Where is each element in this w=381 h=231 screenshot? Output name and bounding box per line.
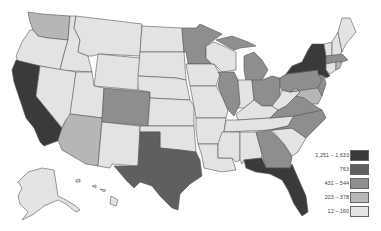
legend-label: 12 – 160 (328, 208, 349, 214)
legend-swatch (350, 150, 369, 161)
state-rhode-island[interactable] (336, 62, 342, 70)
state-hawaii[interactable] (76, 179, 118, 206)
legend-label: 203 – 378 (325, 194, 349, 200)
legend-swatch (350, 164, 369, 175)
legend-label: 431 – 544 (325, 180, 349, 186)
state-north-dakota[interactable] (140, 26, 184, 52)
state-montana[interactable] (74, 16, 142, 56)
legend-row: 203 – 378 (300, 192, 381, 204)
state-new-mexico[interactable] (98, 122, 140, 168)
legend-row: 431 – 544 (300, 178, 381, 190)
legend-swatch (350, 192, 369, 203)
legend-label: 763 (340, 166, 349, 172)
legend-row: 12 – 160 (300, 206, 381, 218)
legend-swatch (350, 206, 369, 217)
legend-row: 763 (300, 164, 381, 176)
legend-row: 1,251 – 1,633 (300, 150, 381, 162)
legend-swatch (350, 178, 369, 189)
state-south-dakota[interactable] (138, 52, 186, 80)
state-maine[interactable] (338, 18, 356, 52)
state-iowa[interactable] (186, 64, 220, 86)
state-colorado[interactable] (102, 88, 150, 126)
state-alaska[interactable] (18, 168, 80, 220)
state-kansas[interactable] (148, 98, 194, 126)
state-mississippi[interactable] (218, 132, 240, 162)
legend-label: 1,251 – 1,633 (315, 152, 349, 158)
state-wyoming[interactable] (94, 54, 140, 90)
